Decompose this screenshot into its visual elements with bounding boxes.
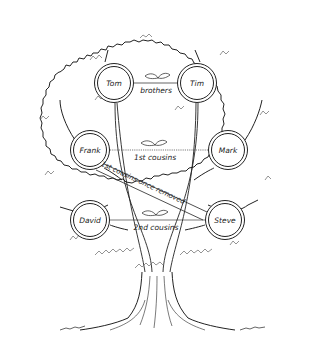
person-name: Tim: [190, 79, 204, 88]
leaf-icon-brothers: [145, 73, 170, 78]
person-node-tom: Tom: [94, 63, 134, 103]
person-name: Frank: [79, 146, 100, 155]
person-name: David: [79, 216, 101, 225]
person-node-david: David: [70, 200, 110, 240]
trunk: [128, 272, 188, 318]
canopy-outline: [40, 40, 225, 183]
leaf-icon-2nd-cousins: [142, 210, 168, 215]
leaf-icon-1st-cousins: [141, 140, 167, 145]
person-name: Tom: [106, 79, 122, 88]
tree-illustration: [0, 0, 314, 348]
relationship-label-2nd-cousins: 2nd cousins: [134, 223, 179, 232]
person-name: Mark: [219, 146, 238, 155]
person-node-tim: Tim: [177, 63, 217, 103]
person-node-steve: Steve: [205, 200, 245, 240]
relationship-label-1st-cousins: 1st cousins: [134, 153, 176, 162]
relationship-label-brothers: brothers: [140, 86, 172, 95]
person-node-mark: Mark: [208, 130, 248, 170]
person-name: Steve: [214, 216, 235, 225]
family-tree-diagram: Tom Tim Frank Mark David Steve brothers …: [0, 0, 314, 348]
